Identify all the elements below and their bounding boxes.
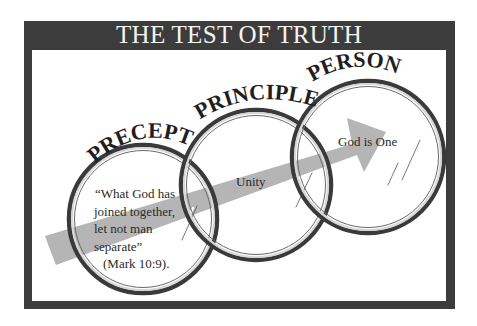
precept-quote-line-1: “What God has	[95, 186, 175, 201]
diagram-title: THE TEST OF TRUTH	[116, 21, 362, 48]
precept-quote-line-3: let not man	[94, 221, 153, 236]
test-of-truth-diagram: THE TEST OF TRUTH	[0, 0, 477, 326]
precept-quote-line-2: joined together,	[93, 204, 175, 219]
precept-citation: (Mark 10:9).	[103, 256, 169, 271]
principle-content: Unity	[236, 174, 266, 189]
precept-quote-line-4: separate”	[94, 239, 143, 254]
person-content: God is One	[338, 134, 397, 149]
